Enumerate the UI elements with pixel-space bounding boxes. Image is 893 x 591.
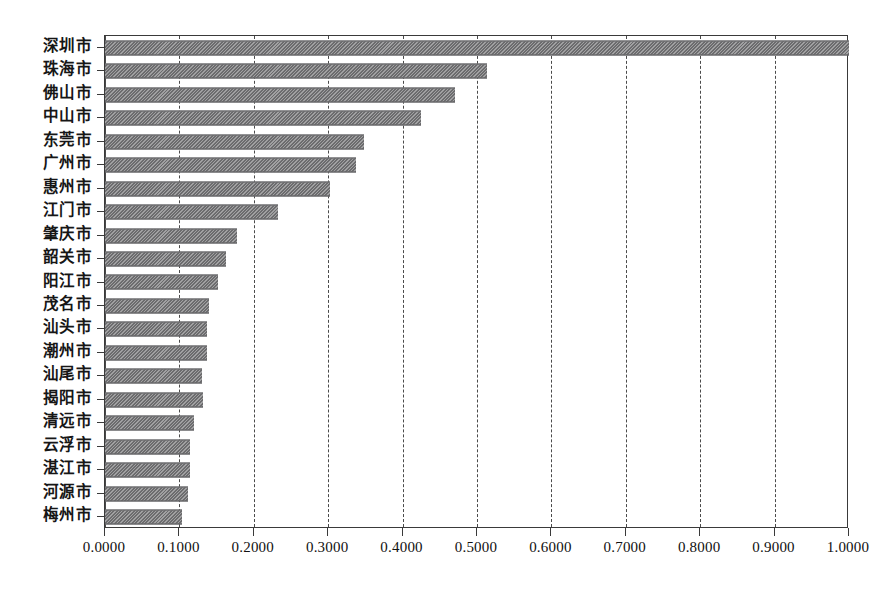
bar-东莞市: [105, 134, 364, 149]
bar-row: [105, 200, 847, 223]
bar-row: [105, 271, 847, 294]
bar-揭阳市: [105, 392, 203, 407]
bar-row: [105, 224, 847, 247]
y-tick-mark: [97, 211, 104, 212]
y-axis-label-阳江市: 阳江市: [43, 274, 93, 290]
y-tick-mark: [97, 258, 104, 259]
y-tick-mark: [97, 141, 104, 142]
bar-湛江市: [105, 463, 190, 478]
bar-广州市: [105, 158, 356, 173]
y-axis-label-东莞市: 东莞市: [43, 133, 93, 149]
y-axis-label-湛江市: 湛江市: [43, 462, 93, 478]
bar-清远市: [105, 416, 194, 431]
plot-area: [104, 35, 848, 528]
y-tick-mark: [97, 516, 104, 517]
x-tick-mark: [253, 528, 254, 536]
bar-肇庆市: [105, 228, 237, 243]
x-tick-mark: [699, 528, 700, 536]
bar-row: [105, 365, 847, 388]
y-tick-mark: [97, 446, 104, 447]
y-axis-label-中山市: 中山市: [43, 109, 93, 125]
bar-row: [105, 59, 847, 82]
x-axis-label-0.1000: 0.1000: [157, 539, 199, 556]
bar-云浮市: [105, 439, 190, 454]
y-axis-label-云浮市: 云浮市: [43, 438, 93, 454]
bar-江门市: [105, 205, 278, 220]
y-tick-mark: [97, 70, 104, 71]
x-tick-mark: [848, 528, 849, 536]
x-axis-label-0.5000: 0.5000: [455, 539, 497, 556]
bar-row: [105, 106, 847, 129]
y-tick-mark: [97, 47, 104, 48]
bar-row: [105, 435, 847, 458]
y-axis-label-茂名市: 茂名市: [43, 297, 93, 313]
x-axis-label-0.3000: 0.3000: [306, 539, 348, 556]
bar-汕尾市: [105, 369, 202, 384]
x-axis-label-0.4000: 0.4000: [380, 539, 422, 556]
bar-row: [105, 412, 847, 435]
x-axis-label-0.7000: 0.7000: [604, 539, 646, 556]
y-axis-label-韶关市: 韶关市: [43, 250, 93, 266]
x-axis-label-0.9000: 0.9000: [752, 539, 794, 556]
y-axis-label-深圳市: 深圳市: [43, 39, 93, 55]
bar-row: [105, 318, 847, 341]
bar-深圳市: [105, 40, 849, 55]
bar-series: [105, 36, 847, 527]
bar-row: [105, 506, 847, 529]
bar-潮州市: [105, 345, 207, 360]
y-axis-label-河源市: 河源市: [43, 485, 93, 501]
y-tick-mark: [97, 422, 104, 423]
x-tick-mark: [402, 528, 403, 536]
y-tick-mark: [97, 235, 104, 236]
y-axis-label-佛山市: 佛山市: [43, 86, 93, 102]
y-axis-label-珠海市: 珠海市: [43, 62, 93, 78]
bar-row: [105, 36, 847, 59]
bar-chart: 深圳市珠海市佛山市中山市东莞市广州市惠州市江门市肇庆市韶关市阳江市茂名市汕头市潮…: [0, 0, 893, 591]
x-axis-label-0.8000: 0.8000: [678, 539, 720, 556]
y-tick-mark: [97, 375, 104, 376]
y-tick-mark: [97, 305, 104, 306]
bar-珠海市: [105, 64, 487, 79]
y-tick-mark: [97, 352, 104, 353]
y-axis-label-广州市: 广州市: [43, 156, 93, 172]
bar-韶关市: [105, 252, 226, 267]
bar-阳江市: [105, 275, 218, 290]
y-axis-label-汕头市: 汕头市: [43, 321, 93, 337]
x-axis-label-1.0000: 1.0000: [827, 539, 869, 556]
bar-row: [105, 482, 847, 505]
y-axis-label-汕尾市: 汕尾市: [43, 368, 93, 384]
bar-梅州市: [105, 510, 182, 525]
x-axis-label-0.6000: 0.6000: [529, 539, 571, 556]
bar-汕头市: [105, 322, 207, 337]
x-tick-mark: [476, 528, 477, 536]
x-tick-mark: [178, 528, 179, 536]
x-axis-label-0.2000: 0.2000: [232, 539, 274, 556]
y-axis-label-梅州市: 梅州市: [43, 509, 93, 525]
y-tick-mark: [97, 282, 104, 283]
y-axis-label-肇庆市: 肇庆市: [43, 227, 93, 243]
bar-row: [105, 177, 847, 200]
bar-row: [105, 247, 847, 270]
bar-row: [105, 459, 847, 482]
bar-佛山市: [105, 87, 455, 102]
bar-惠州市: [105, 181, 330, 196]
y-tick-mark: [97, 493, 104, 494]
x-tick-mark: [625, 528, 626, 536]
y-tick-mark: [97, 399, 104, 400]
y-tick-mark: [97, 117, 104, 118]
y-axis-label-惠州市: 惠州市: [43, 180, 93, 196]
y-tick-mark: [97, 328, 104, 329]
bar-中山市: [105, 111, 421, 126]
y-tick-mark: [97, 164, 104, 165]
y-tick-mark: [97, 469, 104, 470]
x-tick-mark: [550, 528, 551, 536]
bar-茂名市: [105, 298, 209, 313]
y-axis-label-清远市: 清远市: [43, 415, 93, 431]
bar-row: [105, 153, 847, 176]
x-axis-label-0.0000: 0.0000: [83, 539, 125, 556]
y-axis-label-潮州市: 潮州市: [43, 344, 93, 360]
y-axis-label-揭阳市: 揭阳市: [43, 391, 93, 407]
bar-row: [105, 341, 847, 364]
bar-河源市: [105, 486, 188, 501]
x-tick-mark: [774, 528, 775, 536]
